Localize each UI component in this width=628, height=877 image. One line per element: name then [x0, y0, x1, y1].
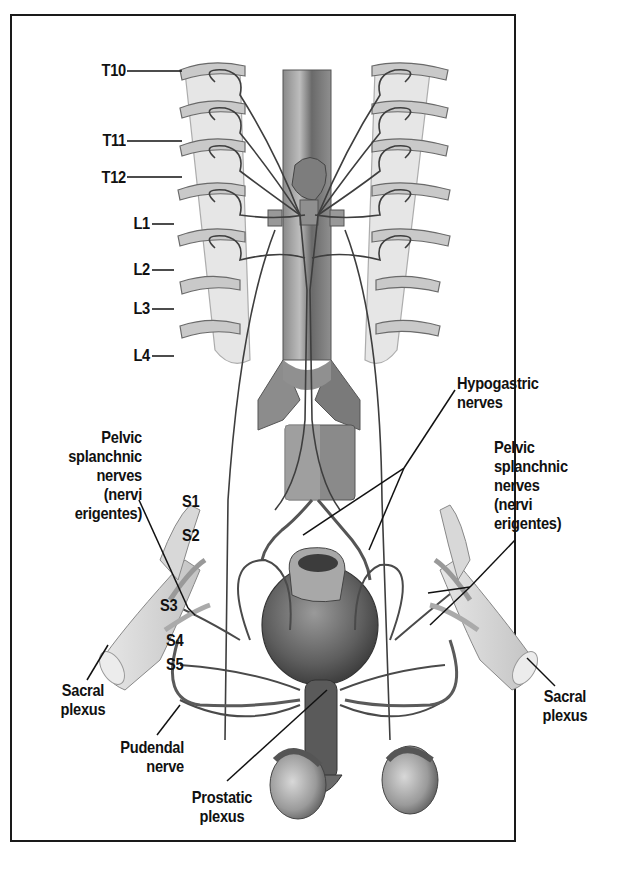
label-s3: S3 — [160, 596, 177, 615]
label-line: Pudendal — [103, 738, 184, 757]
label-t10: T10 — [78, 61, 126, 80]
aorta — [258, 70, 360, 500]
label-pelvic-splanchnic-left: Pelvic splanchnic nerves (nervi erigente… — [41, 428, 142, 523]
label-line: erigentes) — [41, 504, 142, 523]
label-t12: T12 — [78, 168, 126, 187]
label-l3: L3 — [107, 299, 150, 318]
label-line: splanchnic — [41, 447, 142, 466]
label-line: nerve — [103, 757, 184, 776]
label-line: Pelvic — [41, 428, 142, 447]
label-prostatic-plexus: Prostatic plexus — [179, 788, 265, 826]
label-s4: S4 — [166, 631, 183, 650]
label-s1: S1 — [182, 492, 199, 511]
label-pudendal-nerve: Pudendal nerve — [103, 738, 184, 776]
label-line: Hypogastric — [457, 374, 539, 393]
label-s2: S2 — [182, 526, 199, 545]
label-hypogastric-nerves: Hypogastric nerves — [457, 374, 539, 412]
label-line: Sacral — [44, 681, 121, 700]
label-line: Sacral — [526, 687, 603, 706]
label-line: nerves — [494, 476, 568, 495]
label-line: (nervi — [41, 485, 142, 504]
label-s5: S5 — [166, 655, 183, 674]
testes — [270, 746, 438, 819]
label-l1: L1 — [107, 214, 150, 233]
label-l2: L2 — [107, 260, 150, 279]
label-sacral-plexus-left: Sacral plexus — [44, 681, 121, 719]
label-line: nerves — [457, 393, 539, 412]
label-line: erigentes) — [494, 514, 568, 533]
label-line: (nervi — [494, 495, 568, 514]
label-line: nerves — [41, 466, 142, 485]
label-line: Pelvic — [494, 438, 568, 457]
label-line: plexus — [44, 700, 121, 719]
label-line: splanchnic — [494, 457, 568, 476]
label-sacral-plexus-right: Sacral plexus — [526, 687, 603, 725]
label-t11: T11 — [78, 131, 126, 150]
label-line: Prostatic — [179, 788, 265, 807]
label-l4: L4 — [107, 346, 150, 365]
label-pelvic-splanchnic-right: Pelvic splanchnic nerves (nervi erigente… — [494, 438, 568, 533]
label-line: plexus — [526, 706, 603, 725]
label-line: plexus — [179, 807, 265, 826]
